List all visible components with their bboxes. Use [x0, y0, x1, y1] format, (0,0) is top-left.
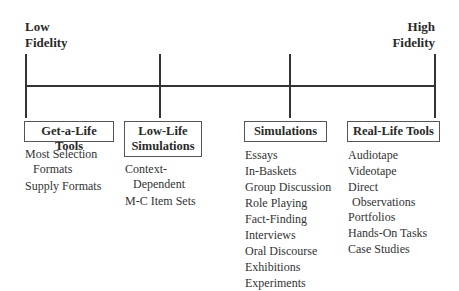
item-text: Case Studies	[348, 242, 410, 256]
low-fidelity-label: Low Fidelity	[25, 19, 68, 51]
list-item: Role Playing	[245, 195, 331, 211]
list-item: Oral Discourse	[245, 243, 331, 259]
list-item: Exhibitions	[245, 259, 331, 275]
list-item: In-Baskets	[245, 163, 331, 179]
high-fidelity-line1: High	[392, 19, 435, 35]
item-text: In-Baskets	[245, 164, 296, 178]
list-item: Hands-On Tasks	[348, 225, 427, 241]
item-text: Experiments	[245, 276, 306, 290]
item-text-continued: Formats	[25, 162, 101, 177]
item-text: Exhibitions	[245, 260, 300, 274]
list-item: Audiotape	[348, 147, 427, 163]
list-item: Videotape	[348, 163, 427, 179]
high-fidelity-label: High Fidelity	[392, 19, 435, 51]
axis-tick-simulations	[289, 54, 291, 118]
category-box-simulations: Simulations	[244, 121, 327, 142]
item-text: Direct	[348, 180, 378, 194]
axis-tick-real-life	[434, 54, 436, 118]
category-title-line1: Low-Life	[128, 124, 198, 139]
list-item: Fact-Finding	[245, 211, 331, 227]
item-text-continued: Observations	[348, 195, 427, 209]
item-text: Role Playing	[245, 196, 307, 210]
low-fidelity-line1: Low	[25, 19, 68, 35]
item-text: Hands-On Tasks	[348, 226, 427, 240]
category-box-real-life-tools: Real-Life Tools	[347, 121, 440, 142]
items-simulations: Essays In-Baskets Group Discussion Role …	[245, 147, 331, 291]
item-text: M-C Item Sets	[125, 194, 196, 208]
category-box-get-a-life-tools: Get-a-Life Tools	[24, 121, 114, 142]
axis-tick-low-life	[159, 54, 161, 118]
axis-tick-get-a-life	[25, 54, 27, 118]
item-text-continued: Dependent	[125, 177, 196, 192]
list-item: Portfolios	[348, 209, 427, 225]
list-item: Context- Dependent	[125, 162, 196, 192]
category-title-line2: Simulations	[128, 139, 198, 154]
item-text: Videotape	[348, 164, 397, 178]
item-text: Interviews	[245, 228, 296, 242]
list-item: Essays	[245, 147, 331, 163]
items-low-life-simulations: Context- Dependent M-C Item Sets	[125, 162, 196, 209]
item-text: Supply Formats	[25, 179, 101, 193]
fidelity-axis-line	[26, 85, 436, 87]
category-title: Real-Life Tools	[353, 124, 434, 138]
list-item: Most Selection Formats	[25, 147, 101, 177]
list-item: M-C Item Sets	[125, 194, 196, 209]
item-text: Context-	[125, 162, 167, 176]
list-item: Supply Formats	[25, 179, 101, 194]
list-item: Interviews	[245, 227, 331, 243]
list-item: Case Studies	[348, 241, 427, 257]
item-text: Audiotape	[348, 148, 398, 162]
item-text: Group Discussion	[245, 180, 331, 194]
low-fidelity-line2: Fidelity	[25, 35, 68, 51]
item-text: Fact-Finding	[245, 212, 307, 226]
item-text: Essays	[245, 148, 278, 162]
item-text: Oral Discourse	[245, 244, 317, 258]
category-title: Simulations	[254, 124, 317, 138]
high-fidelity-line2: Fidelity	[392, 35, 435, 51]
list-item: Experiments	[245, 275, 331, 291]
list-item: Direct Observations	[348, 179, 427, 209]
items-real-life-tools: Audiotape Videotape Direct Observations …	[348, 147, 427, 257]
items-get-a-life-tools: Most Selection Formats Supply Formats	[25, 147, 101, 194]
category-box-low-life-simulations: Low-Life Simulations	[124, 121, 202, 157]
item-text: Portfolios	[348, 210, 395, 224]
item-text: Most Selection	[25, 147, 97, 161]
list-item: Group Discussion	[245, 179, 331, 195]
